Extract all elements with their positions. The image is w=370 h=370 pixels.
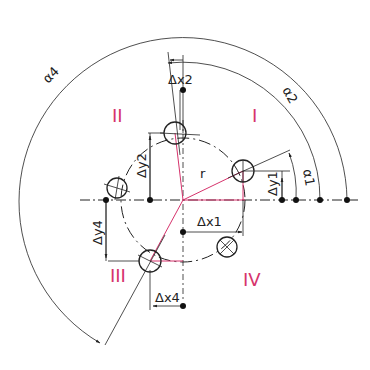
dx1-label: Δx1 — [197, 214, 222, 229]
radius-lines — [150, 133, 245, 261]
quadrant-label-4: IV — [243, 269, 261, 290]
hole-2 — [148, 52, 200, 155]
dy4-label: Δy4 — [90, 220, 105, 245]
reference-dots — [103, 87, 350, 309]
dx4-label: Δx4 — [155, 290, 180, 305]
hole-1 — [228, 150, 290, 182]
radius-label: r — [200, 166, 206, 181]
alpha1-label: α1 — [300, 168, 318, 187]
hole-left — [104, 176, 130, 200]
bolt-circle-diagram: I II III IV r Δx1 Δx4 Δx2 Δy1 Δy2 Δy4 α1… — [0, 0, 370, 370]
quadrant-label-3: III — [110, 265, 126, 286]
alpha2-label: α2 — [279, 84, 300, 106]
dy1-label: Δy1 — [265, 171, 280, 196]
holes — [104, 52, 290, 345]
dy2-label: Δy2 — [134, 153, 149, 178]
quadrant-label-1: I — [252, 105, 257, 126]
dx2-label: Δx2 — [168, 72, 193, 87]
quadrant-label-2: II — [112, 105, 123, 126]
alpha4-label: α4 — [40, 64, 63, 87]
hole-4 — [217, 237, 237, 257]
